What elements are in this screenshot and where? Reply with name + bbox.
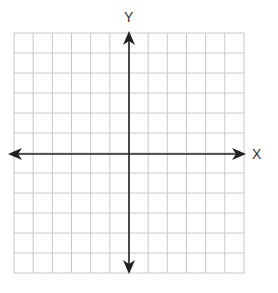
grid-svg xyxy=(0,0,278,293)
x-axis-label: X xyxy=(252,147,261,161)
x-axis xyxy=(8,148,246,160)
y-axis-label: Y xyxy=(124,10,133,24)
